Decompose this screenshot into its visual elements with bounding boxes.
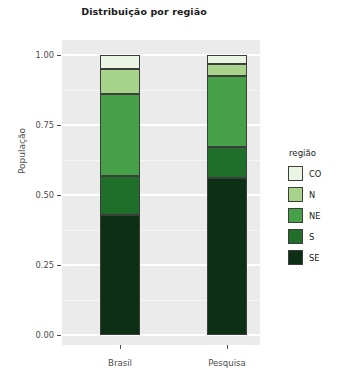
x-tick-label-pesquisa: Pesquisa <box>187 358 267 368</box>
legend-swatch-co <box>288 166 303 181</box>
plot-panel <box>62 40 260 345</box>
legend-label: S <box>309 232 314 242</box>
bar-segment-n[interactable] <box>100 69 140 94</box>
legend-title: região <box>289 148 321 158</box>
bar-segment-s[interactable] <box>207 147 247 178</box>
y-tick-label: 0.75 <box>24 121 54 129</box>
y-tick-mark <box>57 125 61 126</box>
y-tick-mark <box>57 335 61 336</box>
y-tick-label: 0.00 <box>24 331 54 339</box>
x-tick-label-brasil: Brasil <box>80 358 160 368</box>
y-tick-mark <box>57 195 61 196</box>
bar-segment-ne[interactable] <box>207 76 247 147</box>
x-tick-mark <box>227 345 228 349</box>
legend: região CONNESSE <box>288 148 321 269</box>
y-tick-label: 0.50 <box>24 191 54 199</box>
y-axis-title: População <box>17 101 27 201</box>
legend-item-se[interactable]: SE <box>288 248 321 267</box>
bar-segment-s[interactable] <box>100 176 140 215</box>
legend-item-n[interactable]: N <box>288 185 321 204</box>
legend-item-co[interactable]: CO <box>288 164 321 183</box>
legend-label: SE <box>309 253 320 263</box>
chart-title: Distribuição por região <box>0 6 288 17</box>
bar-segment-ne[interactable] <box>100 94 140 176</box>
legend-swatch-s <box>288 229 303 244</box>
y-tick-label: 0.25 <box>24 261 54 269</box>
bar-segment-se[interactable] <box>100 215 140 335</box>
legend-label: NE <box>309 211 320 221</box>
legend-label: CO <box>309 169 321 179</box>
legend-swatch-se <box>288 250 303 265</box>
legend-label: N <box>309 190 315 200</box>
bar-pesquisa[interactable] <box>207 40 247 345</box>
legend-items: CONNESSE <box>288 164 321 267</box>
bar-segment-n[interactable] <box>207 64 247 76</box>
y-tick-mark <box>57 265 61 266</box>
legend-item-s[interactable]: S <box>288 227 321 246</box>
y-tick-label: 1.00 <box>24 51 54 59</box>
stacked-bar-chart: Distribuição por região População região… <box>0 0 340 383</box>
bar-segment-co[interactable] <box>100 55 140 69</box>
legend-item-ne[interactable]: NE <box>288 206 321 225</box>
bar-segment-co[interactable] <box>207 55 247 64</box>
bar-brasil[interactable] <box>100 40 140 345</box>
legend-swatch-n <box>288 187 303 202</box>
legend-swatch-ne <box>288 208 303 223</box>
y-tick-mark <box>57 55 61 56</box>
x-tick-mark <box>120 345 121 349</box>
bar-segment-se[interactable] <box>207 178 247 335</box>
